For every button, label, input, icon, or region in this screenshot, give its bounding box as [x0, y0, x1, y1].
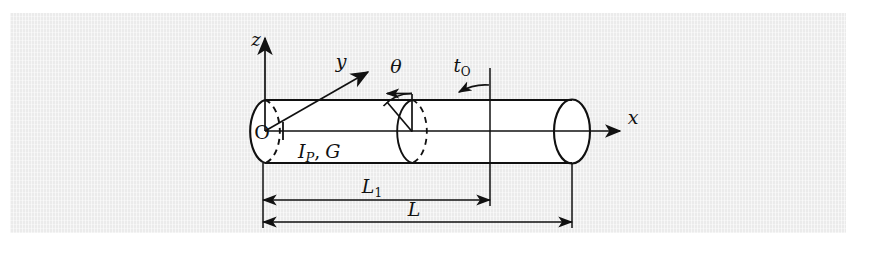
- torque-arrow: [459, 85, 489, 92]
- theta-label: θ: [390, 55, 402, 77]
- z-axis-label: z: [250, 29, 261, 50]
- dimension-lines: L1 L: [263, 163, 572, 228]
- torque-subscript: O: [461, 65, 471, 79]
- y-axis-label: y: [335, 50, 347, 72]
- shear-modulus-symbol: G: [325, 140, 340, 162]
- dim-label-l1: L1: [361, 175, 382, 200]
- section-properties-label: IP,G: [297, 140, 341, 165]
- dim-label-l: L: [407, 198, 421, 220]
- properties-separator: ,: [314, 140, 320, 162]
- dim-l1-subscript: 1: [374, 186, 382, 200]
- torque-label: tO: [453, 55, 470, 79]
- figure-page: θ tO z y x O IP,G: [0, 0, 869, 254]
- shaft-torsion-diagram: θ tO z y x O IP,G: [0, 0, 869, 254]
- dim-l1-symbol: L: [361, 175, 375, 197]
- polar-moment-subscript: P: [305, 150, 315, 165]
- origin-label: O: [254, 121, 270, 143]
- x-axis-label: x: [628, 106, 639, 128]
